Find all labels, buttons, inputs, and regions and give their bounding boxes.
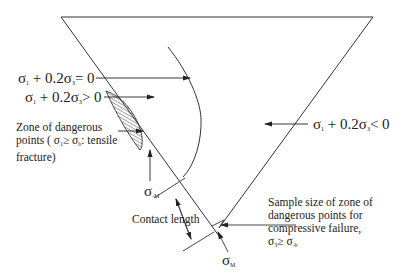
equation-equal-zero: σ1 + 0.2σ3= 0 (18, 71, 95, 86)
equation-greater-zero: σ1 + 0.2σ3> 0 (25, 90, 102, 105)
tensile-zone-label: Zone of dangerous points ( σ1≥ σb: tensi… (16, 121, 117, 164)
sigma-m-label: σM (222, 253, 235, 268)
zero-stress-curve (168, 47, 201, 177)
contact-length-label: Contact length (132, 213, 199, 226)
equation-less-zero: σ1 + 0.2σ3< 0 (313, 117, 390, 132)
sigma-minus-m-label: σ-M (144, 184, 159, 199)
diagram-canvas: σ1 + 0.2σ3= 0 σ1 + 0.2σ3> 0 σ1 + 0.2σ3< … (0, 0, 396, 272)
compressive-zone-label: Sample size of zone of dangerous points … (268, 196, 373, 252)
